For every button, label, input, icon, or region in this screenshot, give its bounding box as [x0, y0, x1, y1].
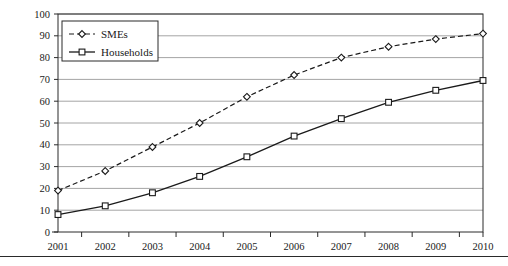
y-tick-label: 30	[40, 161, 51, 172]
x-tick-label: 2006	[284, 241, 305, 252]
data-point-marker-diamond	[385, 43, 392, 50]
x-tick-label: 2010	[473, 241, 494, 252]
x-tick-label: 2005	[236, 241, 257, 252]
x-tick-label: 2002	[95, 241, 116, 252]
x-axis-group: 2001200220032004200520062007200820092010	[48, 232, 494, 252]
series-line	[58, 80, 483, 214]
data-point-marker-diamond	[102, 168, 109, 175]
data-point-marker-diamond	[291, 72, 298, 79]
y-tick-label: 40	[40, 139, 51, 150]
y-tick-label: 10	[40, 205, 51, 216]
data-point-marker-square	[79, 49, 85, 55]
y-tick-label: 50	[40, 118, 51, 129]
data-point-marker-diamond	[243, 93, 250, 100]
data-point-marker-square	[291, 133, 297, 139]
y-tick-label: 100	[34, 9, 50, 20]
data-point-marker-square	[102, 203, 108, 209]
data-point-marker-square	[480, 78, 486, 84]
legend-label: SMEs	[101, 28, 128, 40]
data-point-marker-square	[386, 99, 392, 105]
chart-container: 0102030405060708090100200120022003200420…	[0, 0, 508, 266]
data-point-marker-square	[150, 190, 156, 196]
data-point-marker-square	[55, 212, 61, 218]
data-point-marker-square	[197, 174, 203, 180]
x-tick-label: 2008	[378, 241, 399, 252]
data-point-marker-diamond	[432, 36, 439, 43]
y-tick-label: 0	[45, 227, 50, 238]
line-chart: 0102030405060708090100200120022003200420…	[0, 0, 508, 266]
y-tick-label: 20	[40, 183, 51, 194]
y-tick-label: 80	[40, 52, 51, 63]
y-tick-label: 70	[40, 74, 51, 85]
data-point-marker-square	[433, 87, 439, 93]
data-point-marker-diamond	[196, 120, 203, 127]
x-tick-label: 2003	[142, 241, 163, 252]
y-axis-labels: 0102030405060708090100	[34, 9, 50, 238]
x-tick-label: 2001	[48, 241, 69, 252]
data-point-marker-square	[338, 116, 344, 122]
x-tick-label: 2007	[331, 241, 352, 252]
x-tick-label: 2009	[425, 241, 446, 252]
data-point-marker-square	[244, 154, 250, 160]
chart-legend: SMEsHouseholds	[62, 21, 158, 61]
x-tick-label: 2004	[189, 241, 211, 252]
series-households	[55, 78, 486, 218]
data-point-marker-diamond	[338, 54, 345, 61]
y-tick-label: 60	[40, 96, 51, 107]
y-tick-label: 90	[40, 30, 51, 41]
legend-label: Households	[101, 46, 153, 58]
